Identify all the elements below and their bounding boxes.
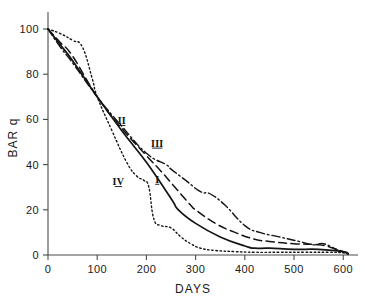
y-axis: 020406080100 [19,12,48,261]
y-tick-label: 80 [26,68,39,80]
series-group [48,29,348,254]
x-tick-label: 0 [45,263,52,275]
y-tick-label: 0 [32,249,39,261]
curve-label-i: I [155,174,159,185]
x-tick-group: 0100200300400500600 [45,255,353,275]
x-tick-label: 500 [284,263,304,275]
y-axis-title: BAR q [6,117,20,157]
series-line-i [48,29,348,254]
series-line-ii [48,29,348,254]
curve-label-iii: III [151,138,163,149]
x-tick-label: 600 [333,263,353,275]
x-tick-label: 300 [186,263,206,275]
chart-canvas: 020406080100 0100200300400500600 IIIIIIV… [0,0,365,300]
curve-label-iv: IV [113,176,125,187]
series-line-iv [48,29,348,254]
x-axis-title: DAYS [175,282,211,296]
series-line-iii [48,29,348,254]
x-tick-label: 400 [235,263,255,275]
x-tick-label: 100 [87,263,107,275]
y-tick-label: 40 [26,159,39,171]
y-tick-group: 020406080100 [19,23,48,261]
y-tick-label: 20 [26,204,39,216]
line-chart: 020406080100 0100200300400500600 IIIIIIV… [0,0,365,300]
x-tick-label: 200 [137,263,157,275]
y-tick-label: 60 [26,113,39,125]
curve-label-ii: II [118,115,126,126]
y-tick-label: 100 [19,23,39,35]
x-axis: 0100200300400500600 [45,255,358,275]
